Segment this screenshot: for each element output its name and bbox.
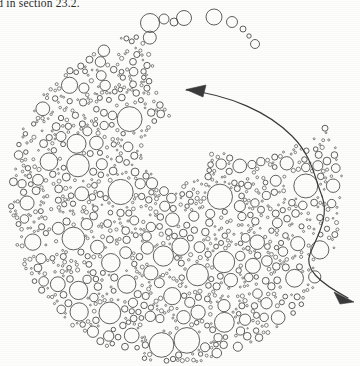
packed-circle xyxy=(22,128,24,130)
packed-circle xyxy=(232,180,238,186)
packed-circle xyxy=(336,213,338,215)
packed-circle xyxy=(212,290,215,293)
packed-circle xyxy=(143,229,146,232)
packed-circle xyxy=(263,180,268,185)
packed-circle xyxy=(210,327,216,333)
packed-circle xyxy=(234,316,236,318)
packed-circle xyxy=(67,68,73,74)
packed-circle xyxy=(275,229,279,233)
packed-circle xyxy=(38,209,43,214)
packed-circle xyxy=(38,149,40,151)
packed-circle xyxy=(111,274,118,281)
packed-circle xyxy=(112,205,114,207)
packed-circle xyxy=(267,251,269,253)
packed-circle xyxy=(156,315,164,323)
packed-circle xyxy=(311,241,329,259)
packed-circle xyxy=(21,170,24,173)
packed-circle xyxy=(46,134,52,140)
packed-circle xyxy=(205,354,208,357)
packed-circle xyxy=(261,200,263,202)
packed-circle xyxy=(251,309,255,313)
packed-circle xyxy=(84,117,86,119)
packed-circle xyxy=(207,248,209,250)
packed-circle xyxy=(235,243,237,245)
packed-circle xyxy=(98,255,101,258)
packed-circle xyxy=(332,232,338,238)
packed-circle xyxy=(264,235,267,238)
packed-circle xyxy=(149,207,153,211)
packed-circle xyxy=(93,317,100,324)
packed-circle xyxy=(87,184,91,188)
packed-circle xyxy=(294,294,300,300)
packed-circle xyxy=(115,334,121,340)
packed-circle xyxy=(195,196,199,200)
packed-circle xyxy=(141,240,143,242)
packed-circle xyxy=(181,282,183,284)
packed-circle xyxy=(169,306,173,310)
packed-circle xyxy=(307,212,310,215)
packed-circle xyxy=(283,185,285,187)
packed-circle xyxy=(312,287,314,289)
packed-circle xyxy=(61,165,66,170)
packed-circle xyxy=(138,98,143,103)
packed-circle xyxy=(24,174,26,176)
packed-circle xyxy=(266,216,269,219)
packed-circle xyxy=(220,282,222,284)
packed-circle xyxy=(178,260,184,266)
packed-circle xyxy=(122,225,124,227)
packed-circle xyxy=(15,168,17,170)
packed-circle xyxy=(206,264,210,268)
packed-circle xyxy=(27,174,32,179)
packed-circle xyxy=(83,261,86,264)
packed-circle xyxy=(272,165,277,170)
packed-circle xyxy=(52,96,57,101)
packed-circle xyxy=(154,246,156,248)
packed-circle xyxy=(115,239,117,241)
packed-circle xyxy=(327,199,335,207)
packed-circle xyxy=(139,272,141,274)
packed-circle xyxy=(134,101,137,104)
packed-circle xyxy=(118,74,120,76)
packed-circle xyxy=(110,158,112,160)
packed-circle xyxy=(72,213,75,216)
packed-circle xyxy=(143,81,145,83)
packed-circle xyxy=(313,228,315,230)
packed-circle xyxy=(233,233,235,235)
packed-circle xyxy=(100,270,105,275)
packed-circle xyxy=(43,216,47,220)
packed-circle xyxy=(65,118,69,122)
packed-circle xyxy=(222,209,227,214)
packed-circle xyxy=(195,294,201,300)
packed-circle xyxy=(245,190,247,192)
packed-circle xyxy=(38,218,40,220)
packed-circle xyxy=(214,312,234,332)
packed-circle xyxy=(116,156,123,163)
packed-circle xyxy=(254,275,259,280)
packed-circle xyxy=(42,190,44,192)
packed-circle xyxy=(238,212,246,220)
packed-circle xyxy=(90,136,104,150)
packed-circle xyxy=(110,341,115,346)
packed-circle xyxy=(87,74,89,76)
packed-circle xyxy=(50,208,53,211)
packed-circle xyxy=(317,206,319,208)
packed-circle xyxy=(126,206,128,208)
packed-circle xyxy=(62,211,64,213)
packed-circle xyxy=(239,264,242,267)
packed-circle xyxy=(236,295,239,298)
packed-circle xyxy=(255,334,263,342)
packed-circle xyxy=(317,214,323,220)
packed-circle xyxy=(322,139,325,142)
packed-circle xyxy=(117,107,142,132)
packed-circle xyxy=(251,207,254,210)
packed-circle xyxy=(144,103,146,105)
packed-circle xyxy=(46,93,48,95)
packed-circle xyxy=(98,225,100,227)
packed-circle xyxy=(170,356,175,361)
packed-circle xyxy=(123,142,133,152)
packed-circle xyxy=(60,95,62,97)
packed-circle xyxy=(32,158,35,161)
packed-circle xyxy=(40,153,58,171)
packed-circle xyxy=(127,89,129,91)
packed-circle xyxy=(40,204,42,206)
